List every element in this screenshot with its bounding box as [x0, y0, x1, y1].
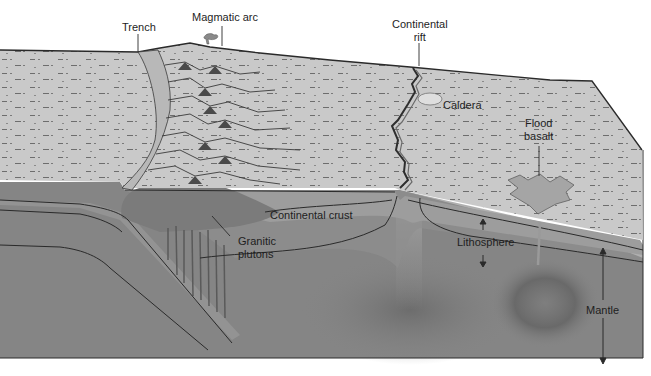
label-continental-rift-line2: rift: [392, 31, 448, 44]
basalt-plume: [490, 258, 600, 348]
diagram-artwork: [0, 0, 651, 376]
label-granitic-plutons-line1: Granitic: [238, 235, 276, 248]
label-magmatic-arc: Magmatic arc: [192, 11, 258, 24]
label-trench: Trench: [122, 21, 156, 34]
label-granitic-plutons: Granitic plutons: [238, 235, 276, 260]
caldera-feature: [418, 93, 442, 105]
label-continental-crust: Continental crust: [270, 209, 353, 222]
label-continental-rift: Continental rift: [392, 18, 448, 43]
label-caldera: Caldera: [443, 99, 482, 112]
label-flood-basalt-line2: basalt: [524, 130, 553, 143]
tectonic-block-diagram: Trench Magmatic arc Continental rift Cal…: [0, 0, 651, 376]
label-continental-rift-line1: Continental: [392, 18, 448, 31]
label-flood-basalt: Flood basalt: [524, 117, 553, 142]
label-granitic-plutons-line2: plutons: [238, 248, 276, 261]
label-flood-basalt-line1: Flood: [524, 117, 553, 130]
label-lithosphere: Lithosphere: [457, 236, 515, 249]
label-mantle: Mantle: [586, 304, 619, 317]
volcano-icon: [204, 34, 218, 44]
